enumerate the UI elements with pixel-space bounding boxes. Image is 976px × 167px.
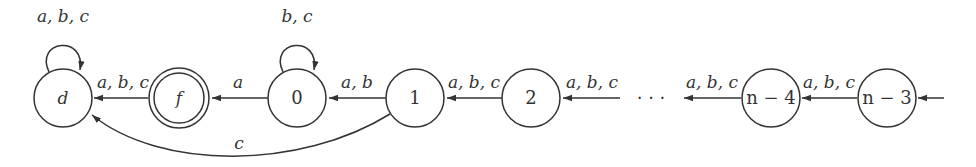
state-n-4-label: n − 4 — [746, 87, 796, 108]
state-n-3-label: n − 3 — [862, 87, 912, 108]
ellipsis: · · · — [637, 87, 666, 108]
edge-d-selfloop — [46, 45, 80, 72]
state-0: 0 — [268, 69, 326, 127]
label-qn4-to-ellipsis: a, b, c — [686, 72, 739, 92]
state-d: d — [34, 69, 92, 127]
automaton-diagram: a, b, c a, b, c b, c a a, b c a, b, c a,… — [0, 0, 976, 167]
state-0-label: 0 — [291, 87, 302, 108]
edge-q0-selfloop — [280, 45, 314, 72]
state-1-label: 1 — [409, 87, 420, 108]
label-q1-to-q0: a, b — [341, 72, 373, 92]
label-q1-to-d: c — [234, 133, 244, 153]
label-q2-to-q1: a, b, c — [448, 72, 501, 92]
state-2-label: 2 — [525, 87, 536, 108]
label-q0-selfloop: b, c — [281, 6, 313, 26]
label-q0-to-f: a — [233, 72, 243, 92]
state-f: f — [149, 68, 209, 128]
state-2: 2 — [502, 69, 560, 127]
state-d-label: d — [58, 88, 69, 108]
label-d-selfloop: a, b, c — [37, 6, 90, 26]
label-ellipsis-to-q2: a, b, c — [566, 72, 619, 92]
label-f-to-d: a, b, c — [97, 72, 150, 92]
label-qn3-to-qn4: a, b, c — [803, 72, 856, 92]
state-n-3: n − 3 — [858, 69, 916, 127]
state-1: 1 — [386, 69, 444, 127]
state-n-4: n − 4 — [742, 69, 800, 127]
